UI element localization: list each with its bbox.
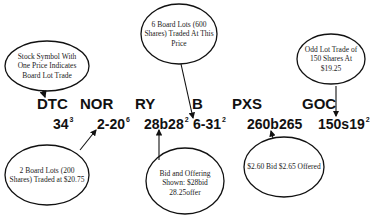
symbol-goc: GOC — [302, 96, 336, 111]
price-b: 6-312 — [193, 116, 226, 131]
price-goc: 150s192 — [318, 116, 370, 131]
odd-lot-note-text: Odd Lot Trade of 150 Shares At $19.25 — [303, 48, 359, 70]
symbol-b: B — [192, 96, 203, 111]
stock-symbol-note-text: Stock Symbol With One Price Indicates Bo… — [12, 50, 82, 82]
pxs-bid-note-text: $2.60 Bid $2.65 Offered — [246, 160, 322, 174]
symbol-nor: NOR — [80, 96, 113, 111]
symbol-pxs: PXS — [232, 96, 262, 111]
arrow-to-nor-price — [80, 130, 96, 150]
price-nor: 2-206 — [97, 116, 130, 131]
price-dtc: 343 — [53, 116, 73, 131]
six-board-lots-note-text: 6 Board Lots (600 Shares) Traded At This… — [143, 22, 215, 46]
symbol-dtc: DTC — [37, 96, 68, 111]
two-board-lots-note-text: 2 Board Lots (200 Shares) Traded at $20.… — [8, 164, 86, 186]
symbol-ry: RY — [135, 96, 155, 111]
stock-quote-diagram: Stock Symbol With One Price Indicates Bo… — [0, 0, 374, 222]
bid-offering-note-text: Bid and Offering Shown: $28bid 28.25offe… — [157, 168, 213, 198]
arrow-to-pxs-price — [271, 131, 273, 138]
price-pxs: 260b265 — [247, 116, 303, 131]
price-ry: 28b282 — [144, 116, 189, 131]
